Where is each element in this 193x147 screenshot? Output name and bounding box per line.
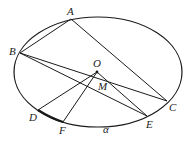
label-A: A [66, 5, 74, 17]
segment-OD [38, 72, 97, 110]
arc-DF-thick [38, 110, 63, 122]
label-D: D [28, 111, 37, 123]
segment-BE [20, 53, 147, 116]
point-O-dot [96, 71, 99, 74]
segments [20, 19, 167, 122]
segment-AB [20, 19, 71, 53]
point-labels: ABCOMDFE [9, 5, 177, 136]
segment-OE [97, 72, 147, 116]
label-C: C [169, 101, 177, 113]
label-O: O [93, 57, 101, 69]
plane-alpha-label: α [103, 123, 109, 135]
geometry-diagram: ABCOMDFE α [0, 0, 193, 147]
label-B: B [9, 45, 16, 57]
label-E: E [145, 118, 153, 130]
label-F: F [58, 124, 66, 136]
label-M: M [97, 80, 108, 92]
segment-OF [63, 72, 97, 122]
